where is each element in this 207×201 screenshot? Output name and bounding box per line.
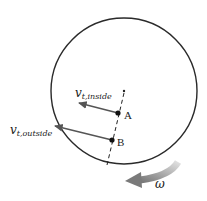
omega-label: ω (155, 177, 165, 191)
point-a-label: A (124, 109, 132, 121)
label-v-inside: vt,inside (75, 86, 112, 101)
point-b-label: B (117, 136, 124, 148)
rotating-disk-diagram: A B vt,inside vt,outside ω (0, 0, 207, 201)
point-a (115, 110, 120, 115)
center-dot (123, 90, 125, 92)
rotation-arrowhead-icon (125, 172, 142, 188)
point-b (109, 137, 114, 142)
radial-dashed-line (107, 93, 124, 165)
label-v-outside: vt,outside (10, 123, 53, 138)
vector-v-inside (79, 103, 118, 113)
